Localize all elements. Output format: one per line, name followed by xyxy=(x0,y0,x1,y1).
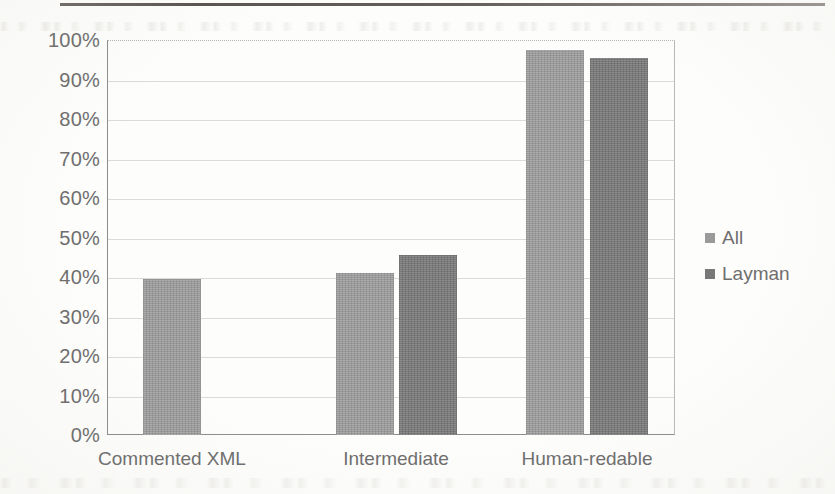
bars-layer xyxy=(107,40,675,435)
bar-intermediate-all[interactable] xyxy=(336,273,394,435)
scan-artifact-noise-bottom xyxy=(0,478,835,488)
y-axis-tick-20: 20% xyxy=(4,345,100,368)
legend-item-all[interactable]: All xyxy=(705,228,790,247)
y-axis-tick-10: 10% xyxy=(4,384,100,407)
bar-human-redable-layman[interactable] xyxy=(590,58,648,435)
y-axis-tick-80: 80% xyxy=(4,108,100,131)
y-axis-tick-50: 50% xyxy=(4,226,100,249)
y-axis-tick-60: 60% xyxy=(4,187,100,210)
square-swatch-icon xyxy=(705,233,715,243)
x-axis-tick-human-redable: Human-redable xyxy=(522,448,653,470)
chart-legend: All Layman xyxy=(705,228,790,283)
y-axis-tick-0: 0% xyxy=(4,424,100,447)
bar-commented-xml-all[interactable] xyxy=(143,279,201,435)
square-swatch-icon xyxy=(705,269,715,279)
legend-item-layman[interactable]: Layman xyxy=(705,264,790,283)
legend-label-layman: Layman xyxy=(722,264,790,283)
x-axis-tick-intermediate: Intermediate xyxy=(343,448,449,470)
y-axis-tick-30: 30% xyxy=(4,305,100,328)
legend-label-all: All xyxy=(722,228,743,247)
y-axis-tick-90: 90% xyxy=(4,68,100,91)
bar-human-redable-all[interactable] xyxy=(526,50,584,435)
y-axis: 100% 90% 80% 70% 60% 50% 40% 30% 20% 10%… xyxy=(0,0,100,494)
bar-chart: 100% 90% 80% 70% 60% 50% 40% 30% 20% 10%… xyxy=(0,0,835,494)
y-axis-tick-70: 70% xyxy=(4,147,100,170)
x-axis-tick-commented-xml: Commented XML xyxy=(98,448,246,470)
y-axis-tick-40: 40% xyxy=(4,266,100,289)
y-axis-tick-100: 100% xyxy=(4,29,100,52)
bar-intermediate-layman[interactable] xyxy=(399,255,457,435)
